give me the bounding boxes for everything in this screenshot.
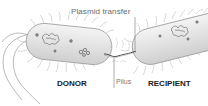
plasmid-transfer-label: Plasmid transfer (71, 7, 130, 16)
donor-label: DONOR (57, 79, 87, 88)
recipient-cell (128, 9, 208, 68)
pilus-mesh (110, 38, 130, 62)
recipient-label: RECIPIENT (148, 79, 191, 88)
pilus-label: Pilus (116, 78, 131, 85)
donor-cell (24, 22, 113, 67)
